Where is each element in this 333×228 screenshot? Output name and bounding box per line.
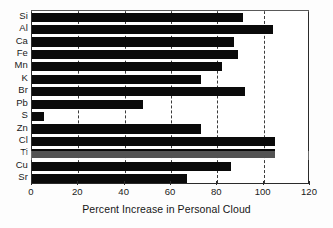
bar-row: [32, 123, 308, 135]
y-axis-label-al: Al: [0, 23, 28, 33]
bar-al: [32, 25, 273, 34]
bar-row: [32, 148, 308, 160]
bar-cu: [32, 162, 231, 171]
bar-series: [32, 11, 308, 183]
y-axis-label-ca: Ca: [0, 36, 28, 46]
y-axis-label-fe: Fe: [0, 48, 28, 58]
bar-row: [32, 86, 308, 98]
y-axis-label-zn: Zn: [0, 123, 28, 133]
x-tick-mark-40: [124, 181, 125, 185]
bar-ti: [32, 149, 275, 158]
bar-mn: [32, 62, 222, 71]
y-axis-label-cu: Cu: [0, 160, 28, 170]
y-axis-label-k: K: [0, 73, 28, 83]
y-axis-label-br: Br: [0, 85, 28, 95]
bar-br: [32, 87, 245, 96]
x-axis-ticks: 020406080100120: [31, 185, 309, 199]
y-axis-label-mn: Mn: [0, 60, 28, 70]
bar-row: [32, 11, 308, 23]
bar-zn: [32, 124, 201, 133]
y-axis-label-si: Si: [0, 11, 28, 21]
bar-chart-figure: SiAlCaFeMnKBrPbSZnClTiCuSr 0204060801001…: [0, 0, 333, 228]
x-tick-label-20: 20: [72, 186, 83, 197]
bar-row: [32, 98, 308, 110]
x-tick-mark-20: [77, 181, 78, 185]
bar-k: [32, 75, 201, 84]
x-axis-title: Percent Increase in Personal Cloud: [0, 203, 333, 215]
bar-s: [32, 112, 44, 121]
x-tick-label-0: 0: [28, 186, 33, 197]
y-axis-label-cl: Cl: [0, 135, 28, 145]
y-axis-label-s: S: [0, 110, 28, 120]
bar-ca: [32, 37, 234, 46]
x-tick-label-80: 80: [211, 186, 222, 197]
bar-row: [32, 135, 308, 147]
x-tick-mark-80: [216, 181, 217, 185]
y-axis-label-sr: Sr: [0, 172, 28, 182]
y-axis-labels: SiAlCaFeMnKBrPbSZnClTiCuSr: [0, 10, 28, 184]
bar-row: [32, 48, 308, 60]
bar-si: [32, 13, 243, 22]
x-tick-label-120: 120: [301, 186, 317, 197]
y-axis-label-ti: Ti: [0, 147, 28, 157]
bar-row: [32, 110, 308, 122]
bar-cl: [32, 137, 275, 146]
x-tick-mark-0: [31, 181, 32, 185]
bar-row: [32, 160, 308, 172]
x-tick-mark-60: [170, 181, 171, 185]
x-tick-label-60: 60: [165, 186, 176, 197]
bar-row: [32, 23, 308, 35]
bar-row: [32, 36, 308, 48]
x-tick-mark-120: [309, 181, 310, 185]
x-tick-mark-100: [263, 181, 264, 185]
bar-fe: [32, 50, 238, 59]
bar-row: [32, 61, 308, 73]
plot-area: [31, 10, 309, 184]
x-tick-label-40: 40: [118, 186, 129, 197]
bar-sr: [32, 174, 187, 183]
bar-row: [32, 73, 308, 85]
x-tick-label-100: 100: [255, 186, 271, 197]
bar-pb: [32, 100, 143, 109]
y-axis-label-pb: Pb: [0, 98, 28, 108]
